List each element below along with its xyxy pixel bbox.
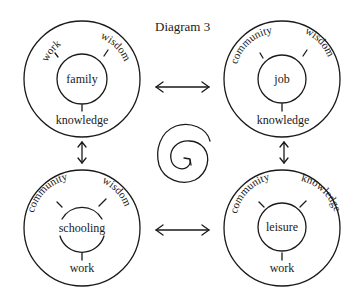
- spoke: [99, 199, 106, 206]
- arrow-schooling-leisure: [156, 225, 209, 235]
- arrow-family-schooling: [78, 142, 86, 163]
- node-center-label: family: [66, 72, 97, 86]
- spoke: [104, 50, 108, 56]
- spoke: [260, 53, 263, 58]
- node-job: job community wisdom knowledge: [224, 21, 340, 137]
- label-bottom: work: [70, 261, 95, 275]
- inner-circle-bottom-arc: [60, 236, 104, 252]
- inner-circle-top-arc: [62, 207, 102, 219]
- label-upper-right: wisdom: [99, 29, 133, 63]
- label-upper-right: wisdom: [101, 173, 135, 208]
- label-upper-left: community: [227, 170, 271, 214]
- diagram-title: Diagram 3: [155, 19, 210, 34]
- label-upper-left: community: [227, 23, 273, 65]
- label-bottom: knowledge: [257, 113, 310, 127]
- label-bottom: work: [270, 261, 295, 275]
- spiral-icon: [158, 124, 210, 182]
- spoke: [57, 202, 62, 207]
- arrow-family-job: [156, 82, 209, 92]
- node-schooling: schooling community wisdom work: [24, 170, 140, 286]
- spoke: [259, 202, 264, 207]
- label-bottom: knowledge: [56, 113, 109, 127]
- node-family: family work wisdom knowledge: [24, 21, 140, 137]
- diagram-canvas: Diagram 3 family work wisdom knowledge j…: [0, 0, 362, 304]
- label-upper-right: knowledge: [300, 171, 344, 213]
- node-center-label: job: [273, 72, 289, 86]
- label-upper-left: work: [38, 37, 62, 64]
- node-center-label: schooling: [59, 221, 106, 235]
- arrow-job-leisure: [280, 142, 288, 163]
- node-center-label: leisure: [266, 220, 298, 234]
- spoke: [55, 53, 58, 57]
- node-leisure: leisure community knowledge work: [224, 170, 344, 286]
- spoke: [300, 201, 306, 207]
- label-upper-right: wisdom: [303, 24, 337, 59]
- spoke: [303, 50, 307, 56]
